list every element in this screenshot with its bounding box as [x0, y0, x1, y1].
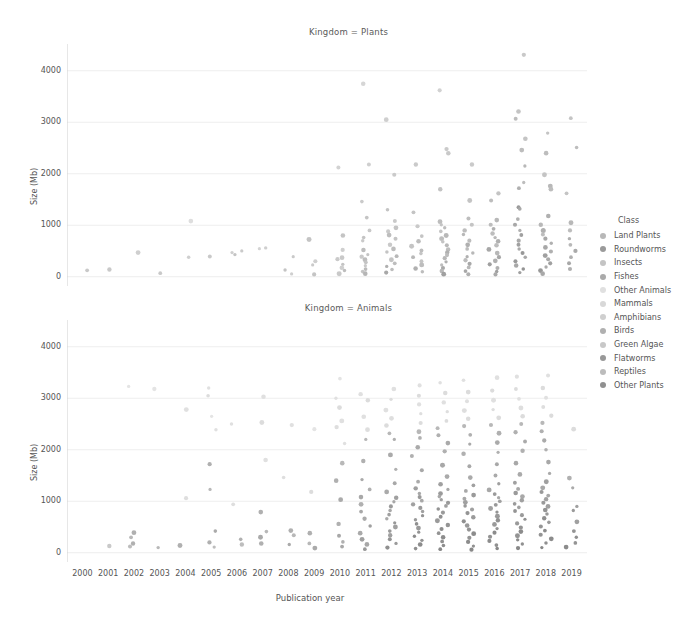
data-point	[413, 535, 416, 538]
data-point	[521, 251, 525, 255]
data-point	[546, 214, 551, 219]
data-point	[543, 253, 548, 258]
data-point	[523, 518, 526, 521]
data-point	[308, 531, 313, 536]
data-point	[368, 488, 372, 492]
data-point	[385, 250, 389, 254]
data-point	[541, 501, 545, 505]
data-point	[413, 486, 417, 490]
data-point	[494, 218, 499, 223]
data-point	[519, 233, 523, 237]
data-point	[239, 538, 243, 542]
data-point	[385, 265, 388, 268]
data-point	[523, 136, 528, 141]
data-point	[409, 244, 414, 249]
data-point	[568, 228, 572, 232]
data-point	[495, 375, 500, 380]
legend-item[interactable]: Green Algae	[596, 338, 696, 352]
data-point	[520, 513, 524, 517]
legend-item[interactable]: Insects	[596, 256, 696, 270]
data-point	[313, 259, 317, 263]
data-point	[495, 266, 499, 270]
data-point	[465, 523, 470, 528]
legend-item[interactable]: Mammals	[596, 297, 696, 311]
data-point	[495, 251, 500, 256]
data-point	[233, 253, 236, 256]
data-point	[543, 245, 548, 250]
data-point	[564, 545, 569, 550]
facet-title-animals: Kingdom = Animals	[0, 303, 697, 313]
data-point	[517, 397, 521, 401]
data-point	[495, 510, 498, 513]
data-point	[517, 239, 521, 243]
data-point	[539, 223, 543, 227]
data-point	[339, 418, 344, 423]
legend-item[interactable]: Roundworms	[596, 243, 696, 257]
data-point	[568, 237, 571, 240]
data-point	[364, 438, 367, 441]
data-point	[420, 234, 424, 238]
data-point	[513, 509, 517, 513]
data-point	[292, 255, 295, 258]
data-point	[574, 519, 579, 524]
data-point	[359, 495, 364, 500]
data-point	[491, 398, 496, 403]
data-point	[136, 250, 141, 255]
data-point	[494, 503, 498, 507]
data-point	[468, 442, 471, 445]
legend-item[interactable]: Flatworms	[596, 351, 696, 365]
data-point	[466, 417, 471, 422]
data-point	[519, 525, 523, 529]
legend-marker-icon	[600, 260, 606, 266]
data-point	[515, 521, 519, 525]
y-tick-label: 2000	[21, 169, 61, 178]
data-point	[127, 385, 130, 388]
legend-item[interactable]: Reptiles	[596, 365, 696, 379]
legend-marker-icon	[600, 301, 606, 307]
data-point	[156, 546, 159, 549]
data-point	[465, 399, 469, 403]
data-point	[311, 263, 314, 266]
data-point	[466, 217, 470, 221]
data-point	[513, 259, 517, 263]
data-point	[513, 502, 517, 506]
legend-item[interactable]: Land Plants	[596, 229, 696, 243]
data-point	[439, 527, 443, 531]
data-point	[567, 476, 572, 481]
data-point	[338, 377, 342, 381]
data-point	[513, 491, 518, 496]
data-point	[465, 511, 469, 515]
legend-marker-icon	[600, 233, 606, 239]
data-point	[545, 512, 549, 516]
legend-item-label: Land Plants	[614, 231, 660, 240]
legend-item[interactable]: Birds	[596, 324, 696, 338]
data-point	[208, 488, 211, 491]
data-point	[445, 474, 450, 479]
data-point	[569, 220, 574, 225]
data-point	[490, 231, 495, 236]
data-point	[362, 236, 366, 240]
legend-item[interactable]: Fishes	[596, 270, 696, 284]
legend-item[interactable]: Other Animals	[596, 283, 696, 297]
data-point	[438, 495, 442, 499]
data-point	[394, 542, 397, 545]
data-point	[418, 542, 423, 547]
data-point	[438, 381, 442, 385]
legend-item-label: Insects	[614, 258, 642, 267]
data-point	[438, 547, 442, 551]
data-point	[540, 546, 543, 549]
data-point	[446, 410, 449, 413]
data-point	[341, 233, 346, 238]
data-point	[385, 545, 389, 549]
legend-item[interactable]: Amphibians	[596, 311, 696, 325]
data-point	[541, 233, 545, 237]
data-point	[341, 248, 345, 252]
data-point	[465, 242, 470, 247]
legend-item[interactable]: Other Plants	[596, 379, 696, 393]
data-point	[361, 239, 364, 242]
data-point	[446, 488, 449, 491]
data-point	[463, 258, 467, 262]
data-point	[444, 504, 448, 508]
data-point	[465, 247, 469, 251]
data-point	[388, 243, 392, 247]
